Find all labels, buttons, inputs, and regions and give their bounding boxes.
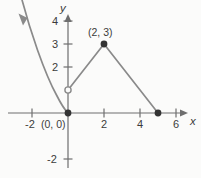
y-axis-label: y	[60, 3, 66, 15]
open-point-zero-one	[65, 87, 71, 93]
x-axis-arrowhead	[180, 109, 188, 116]
y-tick-label-2: 2	[52, 62, 58, 73]
y-tick-label-4: 4	[52, 16, 58, 27]
origin-closed-point	[65, 110, 72, 117]
rising-segment	[68, 44, 104, 90]
graph-figure: -2 2 4 6 4 3 2 -2 y x (0, 0) (2, 3)	[0, 0, 201, 178]
falling-segment	[104, 44, 158, 113]
x-tick-label-6: 6	[173, 119, 179, 130]
x-tick-label--2: -2	[25, 119, 35, 130]
vertex-closed-point	[101, 41, 108, 48]
x-tick-label-2: 2	[101, 119, 107, 130]
exponential-decay-curve	[22, 0, 68, 113]
annotation-vertex: (2, 3)	[88, 27, 113, 38]
y-tick-label-3: 3	[52, 39, 58, 50]
annotation-origin: (0, 0)	[41, 119, 66, 130]
y-tick-label--2: -2	[47, 154, 57, 165]
x-axis-label: x	[190, 116, 196, 128]
x-tick-label-4: 4	[137, 119, 143, 130]
endpoint-closed-point	[155, 110, 162, 117]
